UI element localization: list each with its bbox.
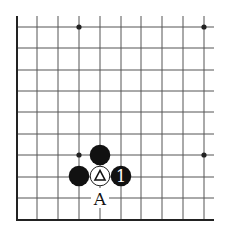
- star-point: [76, 24, 81, 29]
- star-point: [201, 24, 206, 29]
- black-stone: [90, 145, 111, 166]
- go-board-diagram: 1 A: [0, 0, 231, 234]
- star-point: [201, 152, 206, 157]
- black-stone: [69, 166, 90, 187]
- point-label-a: A: [93, 189, 107, 209]
- grid-lines: [17, 16, 214, 220]
- move-number-1: 1: [116, 167, 126, 186]
- star-point: [76, 152, 81, 157]
- board-edges: [16, 16, 214, 221]
